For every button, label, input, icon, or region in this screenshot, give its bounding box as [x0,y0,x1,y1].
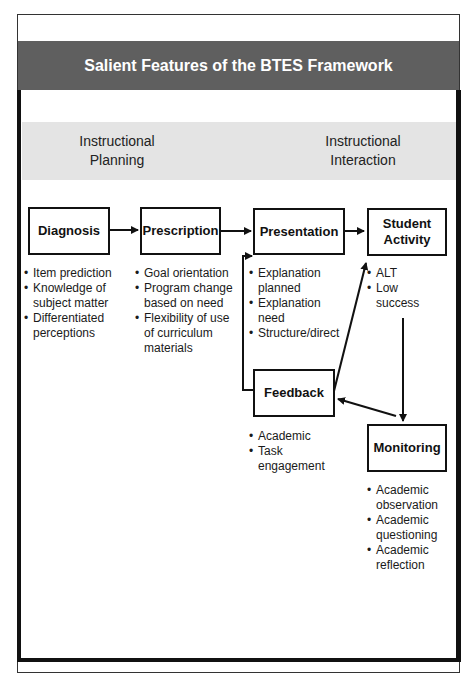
list-item: ALT [367,266,427,281]
diagnosis-bullets: Item prediction Knowledge of subject mat… [24,266,124,341]
node-monitoring: Monitoring [367,424,447,472]
prescription-bullets: Goal orientation Program change based on… [135,266,241,356]
list-item: Task engagement [249,444,303,474]
list-item: Academic [249,429,344,444]
list-item: Program change based on need [135,281,241,311]
feedback-bullets: Academic Task engagement [249,429,344,474]
node-feedback: Feedback [253,369,335,417]
node-student-activity-label-2: Activity [384,232,431,248]
list-item: Explanation planned [249,266,333,296]
node-presentation: Presentation [253,208,345,255]
list-item: Academic questioning [367,513,444,543]
node-diagnosis: Diagnosis [28,207,110,255]
list-item: Differentiated perceptions [24,311,124,341]
list-item: Academic observation [367,483,444,513]
list-item: Explanation need [249,296,333,326]
list-item: Goal orientation [135,266,241,281]
presentation-bullets: Explanation planned Explanation need Str… [249,266,349,341]
list-item: Academic reflection [367,543,444,573]
list-item: Flexibility of use of curriculum materia… [135,311,241,356]
node-student-activity: Student Activity [367,208,447,256]
monitoring-bullets: Academic observation Academic questionin… [367,483,447,573]
student-activity-bullets: ALT Low success [367,266,427,311]
list-item: Structure/direct [249,326,349,341]
node-prescription: Prescription [140,207,221,255]
node-diagnosis-label: Diagnosis [38,223,100,239]
node-monitoring-label: Monitoring [373,440,440,456]
list-item: Knowledge of subject matter [24,281,124,311]
node-presentation-label: Presentation [260,224,339,240]
arrow-monitoring-feedback [338,399,396,416]
node-prescription-label: Prescription [143,223,219,239]
node-student-activity-label-1: Student [383,216,431,232]
list-item: Low success [367,281,416,311]
list-item: Item prediction [24,266,124,281]
node-feedback-label: Feedback [264,385,324,401]
